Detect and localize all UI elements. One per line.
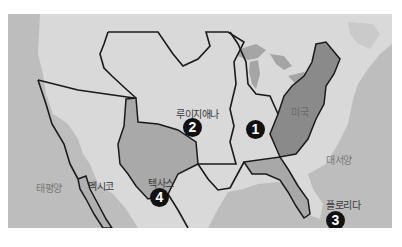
marker-4: 4 <box>150 188 169 207</box>
label-mexico: 멕시코 <box>88 178 114 193</box>
marker-2: 2 <box>183 118 202 137</box>
label-pacific: 태평양 <box>36 180 62 195</box>
label-usa: 미국 <box>291 104 308 119</box>
label-atlantic: 대서양 <box>326 152 352 167</box>
label-florida: 플로리다 <box>326 197 360 212</box>
marker-3: 3 <box>326 211 345 228</box>
territorial-expansion-map: 루이지애나 멕시코 텍사스 플로리다 미국 대서양 태평양 1 2 3 4 <box>8 14 392 228</box>
marker-1: 1 <box>246 120 265 139</box>
